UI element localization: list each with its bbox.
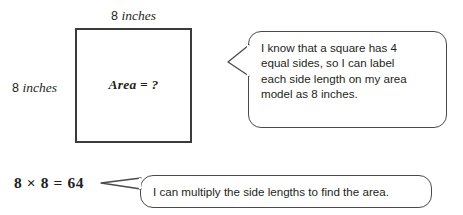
left-dimension-unit: inches bbox=[22, 80, 57, 95]
diagram-canvas: 8 inches 8 inches Area = ? 8 × 8 = 64 I … bbox=[0, 0, 463, 215]
speech-bubble-multiply: I can multiply the side lengths to find … bbox=[140, 175, 432, 208]
top-dimension-label: 8 inches bbox=[75, 8, 192, 24]
multiplication-equation: 8 × 8 = 64 bbox=[14, 174, 84, 192]
speech-bubble-reasoning-text: I know that a square has 4 equal sides, … bbox=[261, 40, 436, 101]
speech-bubble-multiply-text: I can multiply the side lengths to find … bbox=[153, 184, 421, 199]
speech-bubble-reasoning: I know that a square has 4 equal sides, … bbox=[248, 31, 447, 128]
bubble-line: I know that a square has 4 bbox=[261, 40, 436, 55]
bubble-line: equal sides, so I can label bbox=[261, 55, 436, 70]
bubble-2-tail-icon bbox=[101, 178, 141, 189]
bubble-1-tail-icon bbox=[228, 45, 249, 76]
top-dimension-number: 8 bbox=[111, 9, 118, 23]
bubble-line: each side length on my area bbox=[261, 71, 436, 86]
left-dimension-number: 8 bbox=[12, 81, 19, 95]
bubble-line: model as 8 inches. bbox=[261, 86, 436, 101]
top-dimension-unit: inches bbox=[121, 8, 156, 23]
area-question-label: Area = ? bbox=[75, 77, 192, 93]
left-dimension-label: 8 inches bbox=[12, 80, 70, 96]
bubble-line: I can multiply the side lengths to find … bbox=[153, 184, 421, 199]
